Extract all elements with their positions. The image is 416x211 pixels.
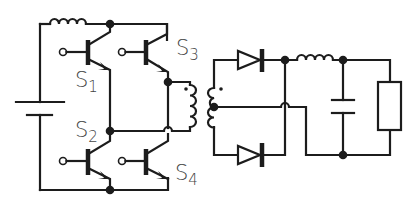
label-s3: S3 bbox=[176, 38, 199, 63]
diode-d1-icon bbox=[238, 49, 262, 72]
label-s1: S1 bbox=[75, 70, 98, 95]
output-inductor-icon bbox=[297, 55, 333, 60]
transformer-primary-icon bbox=[184, 85, 196, 127]
load-resistor-icon bbox=[378, 82, 401, 130]
label-s4: S4 bbox=[175, 163, 198, 188]
battery-icon bbox=[16, 102, 64, 115]
primary-feed-wires bbox=[110, 82, 190, 131]
transistor-s3-icon bbox=[119, 24, 169, 82]
input-loop-wires bbox=[40, 24, 168, 190]
input-inductor-icon bbox=[50, 19, 86, 24]
circuit-diagram bbox=[0, 0, 416, 211]
secondary-wires bbox=[214, 60, 390, 155]
output-capacitor-icon bbox=[332, 100, 354, 113]
transistor-s4-icon bbox=[119, 134, 169, 179]
diode-d2-icon bbox=[238, 143, 262, 167]
label-s2: S2 bbox=[75, 120, 98, 145]
